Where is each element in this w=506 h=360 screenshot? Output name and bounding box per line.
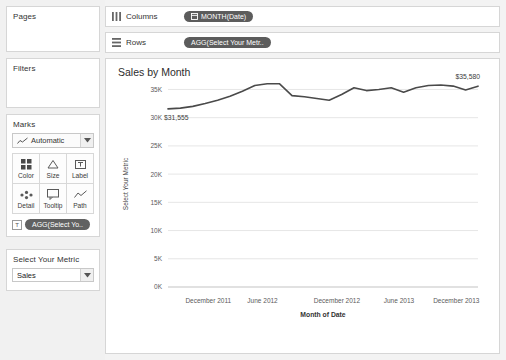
pages-card: Pages xyxy=(6,6,100,52)
filters-title: Filters xyxy=(7,59,99,76)
marks-button-detail[interactable]: Detail xyxy=(13,184,40,214)
pages-title: Pages xyxy=(7,7,99,24)
detail-icon xyxy=(20,188,33,201)
svg-text:15K: 15K xyxy=(150,199,162,206)
rows-icon xyxy=(112,38,121,47)
calendar-icon xyxy=(191,13,198,20)
mark-type-select[interactable]: Automatic xyxy=(12,133,94,148)
parameter-card: Select Your Metric Sales xyxy=(6,249,100,291)
svg-text:December 2012: December 2012 xyxy=(314,297,361,304)
parameter-title: Select Your Metric xyxy=(7,250,99,267)
rows-pill[interactable]: AGG(Select Your Metr.. xyxy=(184,37,271,48)
line-chart-icon xyxy=(17,137,28,145)
svg-text:$35,580: $35,580 xyxy=(455,73,480,80)
marks-card: Marks Automatic xyxy=(6,114,100,237)
columns-icon xyxy=(112,12,121,21)
rows-shelf-label-group: Rows xyxy=(106,38,184,47)
svg-text:35K: 35K xyxy=(150,86,162,93)
tooltip-icon xyxy=(47,188,59,201)
svg-text:25K: 25K xyxy=(150,142,162,149)
columns-label: Columns xyxy=(126,12,158,21)
svg-text:5K: 5K xyxy=(154,255,163,262)
parameter-select[interactable]: Sales xyxy=(12,268,94,282)
svg-text:June 2013: June 2013 xyxy=(384,297,415,304)
tableau-worksheet: Pages Filters Marks Automatic xyxy=(0,0,506,360)
columns-shelf-label-group: Columns xyxy=(106,12,184,21)
svg-text:June 2012: June 2012 xyxy=(247,297,278,304)
marks-button-color-label: Color xyxy=(18,172,34,179)
marks-button-size[interactable]: Size xyxy=(40,154,67,184)
color-icon xyxy=(21,158,32,171)
size-icon xyxy=(47,158,59,171)
parameter-value: Sales xyxy=(17,271,36,280)
chevron-down-icon[interactable] xyxy=(80,134,93,147)
svg-text:0K: 0K xyxy=(154,283,163,290)
svg-text:20K: 20K xyxy=(150,171,162,178)
filters-card: Filters xyxy=(6,58,100,108)
text-mark-icon: T xyxy=(12,220,22,230)
svg-text:December 2013: December 2013 xyxy=(433,297,480,304)
label-icon xyxy=(75,158,86,171)
viz-pane: Sales by Month 0K5K10K15K20K25K30K35KSel… xyxy=(105,58,500,354)
marks-buttons-grid: Color Size Lab xyxy=(12,153,94,214)
svg-text:Select Your Metric: Select Your Metric xyxy=(122,157,129,210)
line-chart: 0K5K10K15K20K25K30K35KSelect Your Metric… xyxy=(106,59,499,354)
marks-button-tooltip[interactable]: Tooltip xyxy=(40,184,67,214)
chevron-down-icon[interactable] xyxy=(80,269,93,281)
svg-text:Month of Date: Month of Date xyxy=(300,311,346,318)
chart-plot: 0K5K10K15K20K25K30K35KSelect Your Metric… xyxy=(106,59,499,353)
marks-button-path-label: Path xyxy=(73,202,87,209)
marks-button-color[interactable]: Color xyxy=(13,154,40,184)
svg-text:December 2011: December 2011 xyxy=(185,297,231,304)
marks-button-label[interactable]: Label xyxy=(67,154,94,184)
rows-shelf[interactable]: Rows AGG(Select Your Metr.. xyxy=(105,32,500,53)
marks-pill[interactable]: AGG(Select Yo.. xyxy=(25,219,90,230)
marks-button-label-label: Label xyxy=(72,172,88,179)
columns-pill-text: MONTH(Date) xyxy=(201,13,246,20)
columns-shelf[interactable]: Columns MONTH(Date) xyxy=(105,6,500,27)
rows-pills: AGG(Select Your Metr.. xyxy=(184,37,271,48)
marks-button-detail-label: Detail xyxy=(18,202,35,209)
rows-label: Rows xyxy=(126,38,146,47)
marks-pill-row: T AGG(Select Yo.. xyxy=(12,219,94,230)
marks-title: Marks xyxy=(7,115,99,132)
marks-button-size-label: Size xyxy=(47,172,60,179)
path-icon xyxy=(74,188,87,201)
svg-text:$31,555: $31,555 xyxy=(164,114,189,121)
sidebar: Pages Filters Marks Automatic xyxy=(0,0,105,360)
marks-button-path[interactable]: Path xyxy=(67,184,94,214)
columns-pill[interactable]: MONTH(Date) xyxy=(184,11,253,22)
svg-text:30K: 30K xyxy=(150,114,162,121)
svg-text:10K: 10K xyxy=(150,227,162,234)
main-area: Columns MONTH(Date) xyxy=(105,0,506,360)
mark-type-label: Automatic xyxy=(31,136,64,145)
marks-button-tooltip-label: Tooltip xyxy=(43,202,62,209)
columns-pills: MONTH(Date) xyxy=(184,11,253,22)
